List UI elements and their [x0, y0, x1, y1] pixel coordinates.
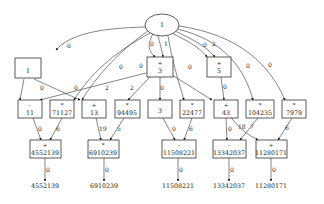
node-value: 11508221 [163, 149, 195, 156]
edge-label: 0 [105, 166, 109, 173]
node-op: + [92, 102, 97, 108]
edge-root-n5-b [175, 31, 215, 57]
node-op: * [61, 102, 64, 108]
node-op: * [293, 102, 296, 108]
node-value: 71127 [52, 109, 72, 116]
output-label: 4552139 [31, 182, 59, 189]
node-value: 13342037 [213, 149, 245, 156]
edge-label: 0 [38, 125, 42, 132]
edge-label: 0 [230, 166, 234, 173]
node-n104235: * 104235 [246, 100, 274, 118]
node-n22477: * 22477 [180, 100, 204, 118]
output-label: 11508221 [162, 182, 194, 189]
node-n13: + 13 [82, 100, 106, 118]
edge-label: 0 [223, 83, 227, 90]
root-node: 1 [145, 14, 179, 36]
node-n11280171: + 11280171 [255, 140, 287, 158]
edge-label: 0 [67, 42, 71, 49]
node-op: - [228, 142, 230, 148]
node-op: - [29, 102, 31, 108]
edge-label: 1 [164, 40, 168, 47]
node-value: 3 [158, 67, 162, 74]
edge-label: 0 [40, 84, 44, 91]
node-value: 3 [158, 107, 162, 114]
edge-label: 6 [285, 124, 289, 131]
edge-label: 0 [160, 84, 164, 91]
node-value: 94495 [117, 109, 137, 116]
root-node-label: 1 [160, 21, 164, 28]
node-value: 104235 [248, 109, 272, 116]
node-op: + [158, 60, 163, 66]
edge-label: 0 [272, 166, 276, 173]
node-op: + [43, 142, 48, 148]
node-value: 43 [222, 109, 230, 116]
edge-label: 0 [268, 61, 272, 68]
node-value: 7979 [286, 109, 302, 116]
node-n13342037: - 13342037 [213, 140, 246, 158]
edge-label: 2 [130, 84, 134, 91]
node-value: 11 [26, 109, 34, 116]
edge-label: 0 [203, 41, 207, 48]
edge-label: 5 [117, 125, 121, 132]
node-value: 13 [90, 109, 98, 116]
edge-label: 6 [189, 125, 193, 132]
node-n6910239: * 6910239 [88, 140, 119, 158]
node-op: + [224, 102, 229, 108]
node-op: * [126, 102, 129, 108]
node-n7979: * 7979 [282, 100, 306, 118]
edge-label: 0 [139, 62, 143, 69]
node-op: * [259, 102, 262, 108]
node-value: 22477 [182, 109, 202, 116]
edge-label: 2 [212, 40, 216, 47]
edge-label: 19 [99, 125, 107, 132]
node-op: + [269, 142, 274, 148]
node-n11: - 11 [18, 100, 42, 118]
edge-root-n3-b [158, 36, 163, 57]
edge-n1-n11 [20, 79, 24, 100]
node-n94495: * 94495 [115, 100, 140, 118]
edge-n3-n43 [172, 75, 212, 100]
edge-root-n5-a [172, 33, 207, 57]
node-op: + [217, 60, 222, 66]
node-n71127: * 71127 [50, 100, 74, 118]
edge-label: 0 [172, 125, 176, 132]
edge-label: 7 [250, 123, 254, 130]
output-label: 6910239 [90, 182, 118, 189]
output-label: 13342037 [213, 182, 245, 189]
node-value: 5 [217, 67, 221, 74]
node-n43: + 43 [214, 100, 238, 118]
output-labels: 4552139 6910239 11508221 13342037 112801… [31, 182, 287, 189]
node-value: 1 [26, 67, 30, 74]
edge-n43-n13342037 [226, 118, 227, 140]
node-value: 6910239 [89, 149, 117, 156]
edge-label: 18 [238, 123, 246, 130]
edge-label: 2 [105, 84, 109, 91]
node-value: 4552139 [31, 149, 59, 156]
node-n5: + 5 [207, 57, 231, 77]
output-label: 11280171 [255, 182, 287, 189]
edge-label: 0 [228, 125, 232, 132]
node-op: * [102, 142, 105, 148]
node-n1: 1 [15, 58, 41, 78]
edge-label: 0 [179, 166, 183, 173]
node-n3: + 3 [147, 57, 173, 77]
node-n11508221: - 11508221 [162, 140, 196, 158]
diagram-canvas: 0 0 1 0 2 0 0 0 0 0 0 0 2 2 0 0 0 6 19 5… [0, 0, 324, 204]
edge-label: 0 [246, 62, 250, 69]
edge-label: 0 [119, 63, 123, 70]
edge-label: 0 [188, 63, 192, 70]
node-value: 11280171 [255, 149, 287, 156]
edge-label: 6 [56, 125, 60, 132]
node-n4552139: + 4552139 [30, 140, 61, 158]
node-op: * [191, 102, 194, 108]
node-n3b: 3 [148, 100, 172, 118]
edge-label: 0 [46, 166, 50, 173]
edge-label: 0 [74, 84, 78, 91]
graph-svg: 0 0 1 0 2 0 0 0 0 0 0 0 2 2 0 0 0 6 19 5… [0, 0, 324, 204]
node-op: - [178, 142, 180, 148]
edge-label: 0 [150, 40, 154, 47]
